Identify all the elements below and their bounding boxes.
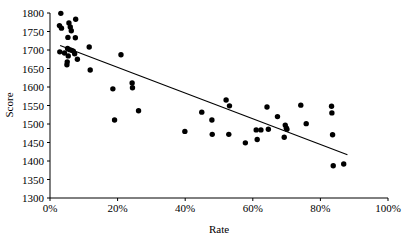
data-point: [258, 127, 263, 132]
x-tick-label: 100%: [375, 202, 401, 214]
y-tick-label: 1750: [22, 26, 45, 38]
y-tick-label: 1300: [22, 192, 45, 204]
x-tick-label: 20%: [108, 202, 128, 214]
y-tick-label: 1350: [22, 174, 45, 186]
y-tick-label: 1800: [22, 7, 45, 19]
data-point: [275, 114, 280, 119]
y-tick-label: 1700: [22, 44, 45, 56]
data-points-layer: [57, 11, 347, 169]
data-point: [75, 57, 80, 62]
data-point: [110, 86, 115, 91]
data-point: [65, 35, 70, 40]
data-point: [112, 117, 117, 122]
data-point: [243, 140, 248, 145]
y-tick-label: 1400: [22, 155, 45, 167]
data-point: [66, 53, 71, 58]
data-point: [298, 102, 303, 107]
data-point: [69, 28, 74, 33]
data-point: [129, 80, 134, 85]
data-point: [87, 44, 92, 49]
data-point: [341, 161, 346, 166]
data-point: [182, 129, 187, 134]
data-point: [266, 126, 271, 131]
data-point: [130, 85, 135, 90]
data-point: [58, 11, 63, 16]
x-axis-title: Rate: [209, 223, 229, 235]
data-point: [223, 97, 228, 102]
y-axis-title: Score: [3, 92, 15, 117]
data-point: [227, 103, 232, 108]
data-point: [330, 132, 335, 137]
data-point: [199, 109, 204, 114]
x-tick-label: 0%: [43, 202, 58, 214]
data-point: [282, 135, 287, 140]
x-axis-tick-labels: 0% 20% 40% 60% 80% 100%: [43, 202, 401, 214]
data-point: [57, 49, 62, 54]
data-point: [59, 25, 64, 30]
y-tick-label: 1550: [22, 100, 45, 112]
chart-canvas: 1800 1750 1700 1650 1600 1550 1500 1450 …: [0, 0, 404, 249]
data-point: [88, 67, 93, 72]
data-point: [136, 108, 141, 113]
data-point: [329, 110, 334, 115]
x-tick-label: 40%: [175, 202, 195, 214]
data-point: [264, 104, 269, 109]
y-tick-label: 1450: [22, 137, 45, 149]
data-point: [329, 104, 334, 109]
y-tick-label: 1600: [22, 81, 45, 93]
data-point: [73, 17, 78, 22]
data-point: [210, 132, 215, 137]
data-point: [226, 132, 231, 137]
y-tick-label: 1500: [22, 118, 45, 130]
x-tick-label: 60%: [243, 202, 263, 214]
data-point: [253, 127, 258, 132]
y-axis-tick-labels: 1800 1750 1700 1650 1600 1550 1500 1450 …: [22, 7, 45, 204]
data-point: [304, 121, 309, 126]
x-tick-label: 80%: [310, 202, 330, 214]
data-point: [209, 117, 214, 122]
data-point: [73, 35, 78, 40]
scatter-plot-figure: 1800 1750 1700 1650 1600 1550 1500 1450 …: [0, 0, 404, 249]
data-point: [331, 163, 336, 168]
trend-line: [60, 46, 347, 155]
y-tick-label: 1650: [22, 63, 45, 75]
data-point: [118, 52, 123, 57]
data-point: [254, 137, 259, 142]
data-point: [64, 62, 69, 67]
